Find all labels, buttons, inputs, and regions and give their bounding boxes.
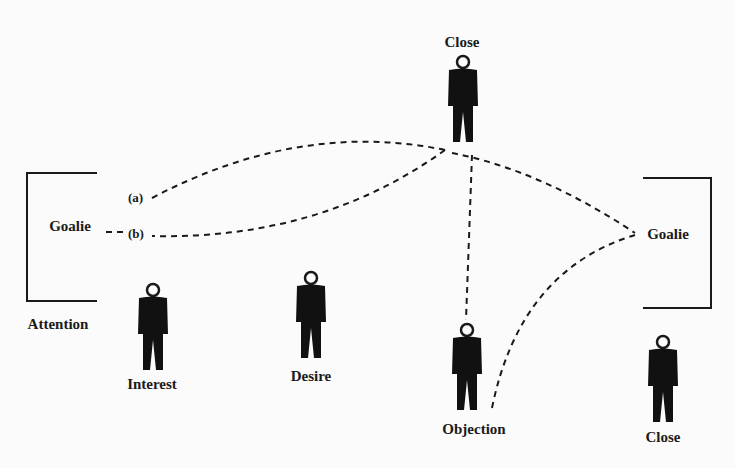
goalie-right-label: Goalie — [647, 226, 689, 243]
person-icon — [443, 54, 483, 144]
close-right-label: Close — [646, 429, 681, 446]
left-goal — [27, 173, 97, 301]
person-icon — [643, 334, 683, 424]
path-a-upper — [152, 142, 445, 198]
objection-label: Objection — [442, 421, 505, 438]
right-goal — [643, 178, 711, 308]
person-icon — [133, 282, 173, 372]
goalie-left-label: Goalie — [49, 218, 91, 235]
path-a-tag: (a) — [128, 190, 143, 206]
path-objection-to-goalie — [492, 235, 635, 408]
person-icon — [447, 322, 487, 412]
path-close-to-goalie — [452, 153, 635, 233]
person-icon — [291, 270, 331, 360]
interest-label: Interest — [127, 376, 177, 393]
close-top-label: Close — [445, 34, 480, 51]
desire-label: Desire — [291, 368, 332, 385]
path-close-to-objection — [466, 155, 472, 320]
attention-label: Attention — [28, 316, 89, 333]
aida-soccer-diagram: Goalie Attention (a) (b) Goalie Close In… — [0, 0, 735, 468]
path-b-tag: (b) — [128, 226, 144, 242]
field-lines — [0, 0, 735, 468]
path-a-lower — [152, 150, 445, 236]
